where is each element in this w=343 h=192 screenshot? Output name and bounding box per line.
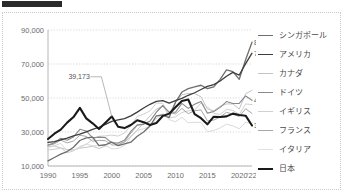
annotation-label: 39,173 (68, 73, 90, 80)
legend-swatch-line-icon (258, 168, 273, 170)
y-axis-tick-label: 50,000 (21, 94, 44, 103)
legend-item[interactable]: イギリス (258, 102, 342, 121)
header-bar (2, 1, 62, 7)
y-axis-tick-label: 70,000 (21, 60, 44, 69)
series-line-0 (48, 42, 252, 161)
legend-item[interactable]: ドイツ (258, 83, 342, 102)
legend-item-label: 日本 (279, 165, 295, 173)
legend-item[interactable]: 日本 (258, 159, 342, 178)
legend-item-label: アメリカ (279, 51, 311, 59)
legend-swatch-line-icon (258, 149, 273, 150)
legend-swatch-line-icon (258, 111, 273, 112)
legend-item-label: ドイツ (279, 89, 303, 97)
x-axis-tick-label: 2005 (135, 171, 152, 180)
legend-item-label: イタリア (279, 146, 311, 154)
legend-item[interactable]: フランス (258, 121, 342, 140)
x-axis-tick-label: 1995 (72, 171, 89, 180)
legend-swatch-line-icon (258, 54, 273, 55)
legend-item-label: フランス (279, 127, 311, 135)
chart-canvas: 10,00030,00050,00070,00090,0001990199520… (6, 16, 256, 188)
legend-item[interactable]: シンガポール (258, 26, 342, 45)
x-axis-tick-label: 2015 (199, 171, 216, 180)
legend-item[interactable]: イタリア (258, 140, 342, 159)
series-line-3 (48, 96, 252, 145)
x-axis-tick-label: 2020 (231, 171, 248, 180)
line-chart: 10,00030,00050,00070,00090,0001990199520… (6, 16, 256, 188)
legend-swatch-line-icon (258, 73, 273, 74)
legend-item[interactable]: アメリカ (258, 45, 342, 64)
x-axis-tick-label: 2010 (167, 171, 184, 180)
legend-item[interactable]: カナダ (258, 64, 342, 83)
legend-swatch-line-icon (258, 130, 273, 131)
y-axis-tick-label: 30,000 (21, 128, 44, 137)
legend-swatch-line-icon (258, 92, 273, 93)
legend-item-label: イギリス (279, 108, 311, 116)
series-end-value-label: 33,822 (254, 122, 256, 129)
x-axis-tick-label: 2000 (103, 171, 120, 180)
series-end-value-label: 48,636 (254, 97, 256, 104)
screenshot-root: 10,00030,00050,00070,00090,0001990199520… (0, 0, 343, 192)
y-axis-tick-label: 10,000 (21, 162, 44, 171)
y-axis-tick-label: 90,000 (21, 26, 44, 35)
legend-swatch-line-icon (258, 35, 273, 36)
legend-item-label: シンガポール (279, 32, 327, 40)
annotation-leader-line (101, 77, 111, 117)
legend-item-label: カナダ (279, 70, 303, 78)
x-axis-tick-label: 1990 (40, 171, 57, 180)
series-end-value-label: 82,808 (254, 39, 256, 46)
x-axis-tick-label: '22 (247, 171, 256, 180)
chart-legend: シンガポールアメリカカナダドイツイギリスフランスイタリア日本 (258, 26, 342, 178)
series-end-value-label: 76,348 (254, 50, 256, 57)
